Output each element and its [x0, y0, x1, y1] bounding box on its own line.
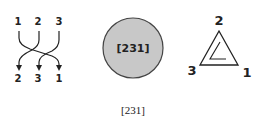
- braid-top-label-2: 2: [35, 16, 42, 27]
- cycle-circle: [231]: [103, 18, 163, 78]
- braid-strand-2: [19, 31, 39, 68]
- braid-strand-3: [39, 31, 59, 68]
- rotation-triangle: 2 3 1: [187, 13, 251, 80]
- braid-diagram: 1 2 3 2 3 1: [15, 16, 63, 84]
- braid-bottom-label-2: 3: [35, 73, 42, 84]
- inner-rotation-arrow-icon: [210, 42, 226, 59]
- braid-bottom-label-3: 1: [56, 73, 63, 84]
- braid-bottom-label-1: 2: [15, 73, 22, 84]
- triangle-vertex-right: 1: [242, 65, 251, 80]
- permutation-diagram: 1 2 3 2 3 1 [231] 2 3 1 [231]: [0, 0, 267, 125]
- outer-triangle: [200, 31, 238, 65]
- braid-top-label-1: 1: [15, 16, 22, 27]
- figure-caption: [231]: [121, 104, 145, 116]
- triangle-vertex-left: 3: [187, 63, 196, 78]
- circle-label: [231]: [116, 42, 149, 55]
- braid-top-label-3: 3: [56, 16, 63, 27]
- triangle-vertex-top: 2: [214, 13, 223, 28]
